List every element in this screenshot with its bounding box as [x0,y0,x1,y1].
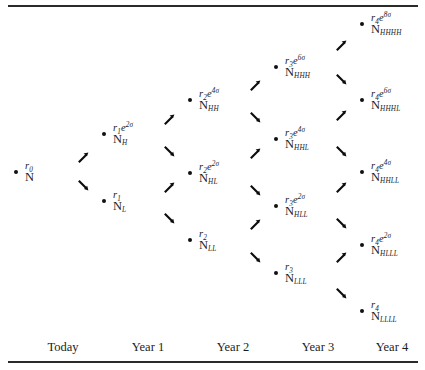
transition-arrow-up-HHH-to-HHHH [336,40,347,51]
node-label: r1NL [113,190,126,212]
axis-label-year-1: Year 1 [132,340,164,355]
transition-arrow-down-root-to-L [78,180,89,191]
transition-arrow-down-HHH-to-HHHL [336,74,347,85]
node-dot [102,132,106,136]
transition-arrow-up-H-to-HH [164,114,175,125]
transition-arrow-up-LLL-to-HLLL [336,252,347,263]
top-rule [8,5,418,7]
axis-label-today: Today [47,340,78,355]
node-label: r3e4σNHHL [285,128,309,150]
node-dot [360,309,364,313]
transition-arrow-down-HLL-to-HLLL [336,218,347,229]
node-value-label: NHH [199,99,219,112]
transition-arrow-down-L-to-LL [164,213,175,224]
node-label: r4e6σNHHHL [371,89,400,111]
node-dot [274,137,278,141]
node-dot [360,243,364,247]
node-label: r4e2σNHLLL [371,234,398,256]
node-dot [274,204,278,208]
node-dot [102,199,106,203]
node-label: r3NLLL [285,262,307,284]
transition-arrow-up-HLL-to-HHLL [336,182,347,193]
node-dot [360,98,364,102]
transition-arrow-up-HL-to-HHL [250,148,261,159]
node-dot [360,22,364,26]
node-dot [188,238,192,242]
node-label: r2NLL [199,229,216,251]
node-value-label: NH [113,133,133,146]
bottom-rule [8,361,418,363]
transition-arrow-down-HH-to-HHL [250,112,261,123]
transition-arrow-up-HH-to-HHH [250,80,261,91]
node-label: r4e4σNHHLL [371,161,399,183]
transition-arrow-up-LL-to-HLL [250,219,261,230]
node-dot [14,170,18,174]
transition-arrow-down-HL-to-HLL [250,185,261,196]
node-dot [360,170,364,174]
node-label: r3e6σNHHH [285,56,310,78]
node-label: r3e2σNHLL [285,195,308,217]
transition-arrow-down-LL-to-LLL [250,252,261,263]
transition-arrow-up-HHL-to-HHHL [336,110,347,121]
node-label: r0N [25,161,34,183]
node-dot [188,171,192,175]
axis-label-year-3: Year 3 [302,340,334,355]
transition-arrow-up-L-to-HL [164,182,175,193]
node-label: r4NLLLL [371,300,397,322]
axis-label-year-2: Year 2 [217,340,249,355]
transition-arrow-down-H-to-HL [164,146,175,157]
transition-arrow-up-root-to-H [78,152,89,163]
node-label: r4e8σNHHHH [371,13,402,35]
node-label: r1e2σNH [113,123,133,145]
node-dot [274,65,278,69]
node-value-label: NLL [199,239,216,252]
transition-arrow-down-LLL-to-LLLL [336,288,347,299]
node-value-label: NHL [199,172,219,185]
node-dot [188,98,192,102]
node-dot [274,271,278,275]
binomial-lattice-figure: r0Nr1e2σNHr1NLr2e4σNHHr2e2σNHLr2NLLr3e6σ… [0,0,425,370]
transition-arrow-down-HHL-to-HHLL [336,146,347,157]
axis-label-year-4: Year 4 [376,340,408,355]
node-label: r2e4σNHH [199,89,219,111]
node-label: r2e2σNHL [199,162,219,184]
